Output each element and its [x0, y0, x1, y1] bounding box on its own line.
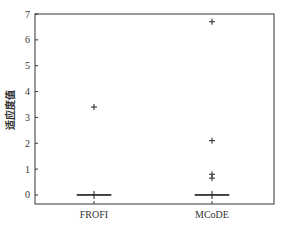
y-axis-ticks: 01234567 [25, 9, 38, 201]
x-category-label: FROFI [80, 209, 108, 220]
y-tick-label: 5 [25, 60, 30, 71]
outlier-marker [91, 104, 97, 110]
outlier-marker [209, 19, 215, 25]
y-tick-label: 1 [25, 164, 30, 175]
x-category-label: MCoDE [195, 209, 229, 220]
y-tick-label: 7 [25, 9, 30, 20]
y-tick-label: 0 [25, 189, 30, 200]
y-tick-label: 3 [25, 112, 30, 123]
y-axis-label: 适应度值 [4, 90, 16, 130]
outlier-marker [209, 138, 215, 144]
outlier-marker [209, 175, 215, 181]
box-frofi [77, 104, 111, 199]
y-tick-label: 6 [25, 34, 30, 45]
box-mcode [195, 19, 229, 199]
plot-border [35, 14, 274, 204]
box-plot-chart: 01234567 FROFIMCoDE 适应度值 [0, 0, 285, 231]
plot-frame [35, 14, 274, 204]
y-tick-label: 4 [25, 86, 30, 97]
y-tick-label: 2 [25, 138, 30, 149]
box-series [77, 19, 229, 199]
